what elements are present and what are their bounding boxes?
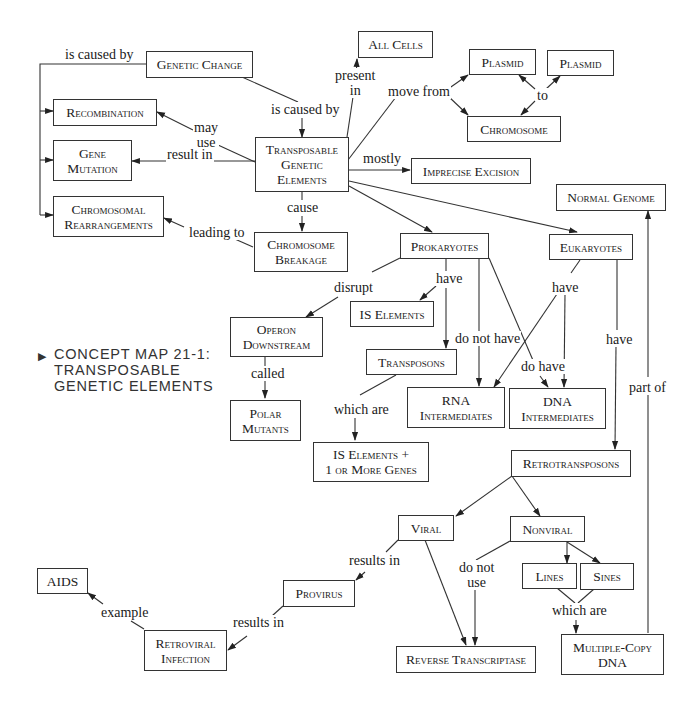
link-have-retrotransposons: have (605, 332, 633, 347)
node-prokaryotes: Prokaryotes (400, 233, 489, 259)
node-lines: Lines (522, 563, 577, 589)
triangle-marker-icon: ▶ (38, 348, 47, 364)
node-polar-mutants: Polar Mutants (230, 400, 301, 441)
node-nonviral: Nonviral (510, 516, 585, 542)
link-present-in: present in (334, 68, 376, 98)
link-to: to (536, 88, 549, 103)
node-transposons: Transposons (366, 349, 457, 375)
link-called: called (250, 366, 285, 381)
link-may-use: may use (193, 120, 219, 150)
node-genetic-change: Genetic Change (146, 51, 253, 78)
node-provirus: Provirus (283, 580, 355, 607)
node-rna-intermediates: RNA Intermediates (407, 387, 505, 428)
link-which-are-transposons: which are (333, 402, 390, 417)
node-recombination: Recombination (53, 99, 157, 126)
node-chromosome-breakage: Chromosome Breakage (254, 232, 348, 272)
link-have-eukaryotes: have (551, 280, 579, 295)
link-results-in-provirus: results in (232, 615, 285, 630)
node-sines: Sines (580, 563, 634, 590)
node-viral: Viral (398, 515, 454, 541)
figure-caption: ▶ CONCEPT MAP 21-1: TRANSPOSABLE GENETIC… (38, 346, 213, 394)
node-imprecise-excision: Imprecise Excision (411, 158, 531, 184)
link-results-in-viral: results in (348, 553, 401, 568)
link-is-caused-by-left: is caused by (64, 47, 134, 62)
link-which-are-lines: which are (551, 603, 608, 618)
node-aids: AIDS (37, 568, 88, 594)
link-do-not-have: do not have (454, 331, 521, 346)
node-retrotransposons: Retrotransposons (511, 450, 631, 477)
node-all-cells: All Cells (358, 31, 433, 58)
link-do-have: do have (520, 359, 566, 374)
link-have-prokaryotes: have (435, 271, 463, 286)
node-multiple-copy-dna: Multiple-Copy DNA (561, 634, 664, 675)
node-normal-genome: Normal Genome (556, 184, 666, 211)
link-mostly: mostly (362, 151, 402, 166)
link-example: example (100, 605, 149, 620)
link-disrupt: disrupt (333, 280, 374, 295)
node-chromosomal-rearrangements: Chromosomal Rearrangements (53, 196, 164, 237)
node-is-elements-plus-genes: IS Elements + 1 or More Genes (313, 442, 429, 482)
node-eukaryotes: Eukaryotes (549, 234, 633, 260)
link-do-not-use: do not use (458, 560, 495, 590)
link-result-in: result in (166, 147, 214, 162)
node-plasmid-1: Plasmid (469, 49, 536, 75)
link-is-caused-by: is caused by (270, 102, 340, 117)
caption-text: CONCEPT MAP 21-1: TRANSPOSABLE GENETIC E… (54, 346, 213, 394)
node-transposable-genetic-elements: Transposable Genetic Elements (255, 137, 349, 192)
link-leading-to: leading to (188, 225, 246, 240)
node-retroviral-infection: Retroviral Infection (144, 630, 227, 671)
link-part-of: part of (628, 380, 667, 395)
link-move-from: move from (387, 84, 451, 99)
node-gene-mutation: Gene Mutation (53, 140, 132, 181)
link-cause: cause (286, 200, 319, 215)
node-chromosome: Chromosome (467, 116, 561, 142)
node-operon-downstream: Operon Downstream (230, 317, 323, 357)
node-plasmid-2: Plasmid (547, 50, 614, 76)
node-reverse-transcriptase: Reverse Transcriptase (396, 646, 536, 673)
node-dna-intermediates: DNA Intermediates (509, 388, 606, 429)
node-is-elements: IS Elements (350, 301, 434, 327)
